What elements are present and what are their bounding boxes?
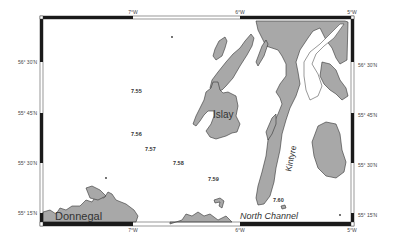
lat-label-left-5630: 56° 30'N xyxy=(18,59,37,65)
station-label: 7.57 xyxy=(145,146,156,152)
lat-label-left-5515: 55° 15'N xyxy=(18,210,37,216)
lon-label-top-7w: 7°W xyxy=(128,9,138,15)
lon-label-top-5w: 5°W xyxy=(347,9,357,15)
station-label: 7.59 xyxy=(208,176,219,182)
island-sanda xyxy=(281,205,286,209)
place-label-north-channel: North Channel xyxy=(240,211,299,221)
lon-label-bottom-6w: 6°W xyxy=(235,227,245,233)
station-label: 7.60 xyxy=(273,197,284,203)
lat-label-right-5515: 55° 15'N xyxy=(358,212,377,218)
lat-label-right-5530: 55° 30'N xyxy=(358,162,377,168)
lon-label-bottom-7w: 7°W xyxy=(128,227,138,233)
lat-label-left-5545: 55° 45'N xyxy=(18,110,37,116)
lon-label-top-6w: 6°W xyxy=(235,9,245,15)
lat-label-right-5630: 56° 30'N xyxy=(358,62,377,68)
lat-label-right-5545: 55° 45'N xyxy=(358,112,377,118)
lat-label-left-5530: 55° 30'N xyxy=(18,160,37,166)
station-label: 7.58 xyxy=(173,160,184,166)
lon-label-bottom-5w: 5°W xyxy=(347,227,357,233)
map-figure: 7°W 6°W 5°W 7°W 6°W 5°W 56° 30'N 55° 45'… xyxy=(0,0,395,248)
place-label-donnegal: Donnegal xyxy=(55,210,102,222)
station-label: 7.56 xyxy=(131,131,142,137)
station-label: 7.55 xyxy=(131,88,142,94)
place-label-islay: Islay xyxy=(213,109,234,120)
